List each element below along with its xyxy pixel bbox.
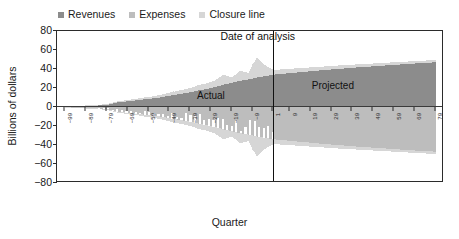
expenses-notch — [254, 121, 256, 136]
annotation-actual: Actual — [197, 90, 225, 101]
x-tick-label: 19 — [312, 113, 318, 120]
expenses-notch — [167, 116, 169, 118]
y-tick-label: −80 — [24, 176, 52, 188]
x-tick-label: −19 — [233, 113, 239, 123]
x-tick-label: −39 — [192, 113, 198, 123]
zero-baseline — [57, 106, 442, 107]
expenses-notch — [203, 120, 205, 124]
annotation-date-of-analysis: Date of analysis — [220, 31, 295, 42]
legend-swatch-closure-line-icon — [199, 12, 205, 18]
x-tick-label: −99 — [67, 113, 73, 123]
y-tick-mark — [53, 182, 57, 183]
x-tick-label: 69 — [416, 113, 422, 120]
expenses-notch — [112, 110, 114, 111]
y-tick-label: 20 — [24, 81, 52, 93]
date-of-analysis-line — [273, 31, 274, 182]
legend-item-closure-line: Closure line — [199, 9, 264, 20]
legend-swatch-expenses-icon — [129, 12, 135, 18]
x-tick-label: −49 — [171, 113, 177, 123]
plot-inner: Actual Projected — [57, 31, 442, 181]
x-tick-label: 79 — [437, 113, 443, 120]
legend-item-revenues: Revenues — [58, 9, 115, 20]
x-tick-label: 9 — [292, 113, 298, 116]
y-tick-label: −40 — [24, 138, 52, 150]
expenses-notch — [180, 118, 182, 120]
x-tick-label: −9 — [254, 113, 260, 120]
legend-label-closure-line: Closure line — [209, 9, 264, 20]
expenses-notch — [208, 119, 210, 126]
annotation-projected: Projected — [312, 80, 354, 91]
expenses-notch — [267, 126, 269, 138]
x-tick-label: 29 — [333, 113, 339, 120]
expenses-notch — [240, 131, 242, 134]
y-axis-ticks: 806040200−20−40−60−80 — [22, 30, 52, 182]
expenses-notch — [162, 114, 164, 118]
expenses-notch — [121, 110, 123, 112]
expenses-notch — [157, 114, 159, 116]
x-tick-label: −79 — [108, 113, 114, 123]
expenses-notch — [258, 127, 260, 137]
x-tick-label: 39 — [354, 113, 360, 120]
legend-swatch-revenues-icon — [58, 12, 64, 18]
expenses-notch — [249, 120, 251, 135]
expenses-notch — [125, 111, 127, 113]
x-tick-label: −29 — [212, 113, 218, 123]
y-tick-label: −60 — [24, 157, 52, 169]
expenses-notch — [199, 114, 201, 124]
x-tick-label: 1 — [275, 113, 281, 116]
chart-figure: Revenues Expenses Closure line Billions … — [0, 0, 459, 239]
x-axis-title: Quarter — [0, 216, 459, 228]
x-tick-label: −69 — [129, 113, 135, 123]
x-tick-label: −59 — [150, 113, 156, 123]
expenses-notch — [244, 127, 246, 134]
expenses-notch — [107, 108, 109, 109]
x-tick-label: 59 — [396, 113, 402, 120]
expenses-notch — [144, 111, 146, 114]
legend-label-revenues: Revenues — [68, 9, 115, 20]
y-tick-label: 40 — [24, 62, 52, 74]
x-tick-label: 49 — [375, 113, 381, 120]
y-tick-label: 0 — [24, 100, 52, 112]
y-tick-label: 80 — [24, 24, 52, 36]
legend-label-expenses: Expenses — [139, 9, 185, 20]
expenses-notch — [103, 108, 105, 109]
y-axis-title: Billions of dollars — [6, 61, 18, 151]
expenses-notch — [116, 109, 118, 111]
expenses-notch — [185, 113, 187, 121]
x-tick-label: −89 — [88, 113, 94, 123]
expenses-notch — [222, 119, 224, 129]
legend-item-expenses: Expenses — [129, 9, 185, 20]
expenses-notch — [226, 125, 228, 130]
plot-area: Actual Projected — [56, 30, 443, 182]
expenses-notch — [263, 128, 265, 137]
expenses-notch — [231, 126, 233, 131]
expenses-notch — [139, 113, 141, 114]
y-tick-label: 60 — [24, 43, 52, 55]
chart-legend: Revenues Expenses Closure line — [58, 9, 265, 20]
y-tick-label: −20 — [24, 119, 52, 131]
